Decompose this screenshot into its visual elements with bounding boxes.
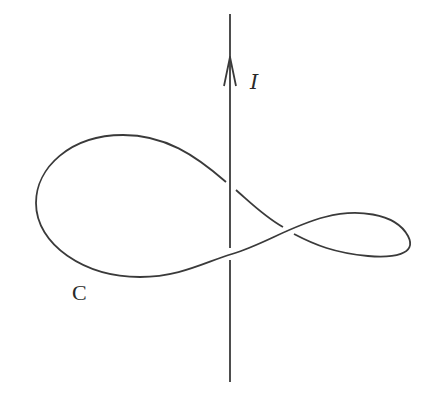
curve-main-segment	[36, 135, 410, 277]
curve-label: C	[72, 280, 87, 305]
current-label: I	[249, 70, 259, 94]
current-wire	[224, 14, 236, 382]
ampere-loop-diagram: I C	[0, 0, 431, 403]
curve-c	[36, 135, 410, 277]
curve-return-segment	[236, 190, 283, 227]
